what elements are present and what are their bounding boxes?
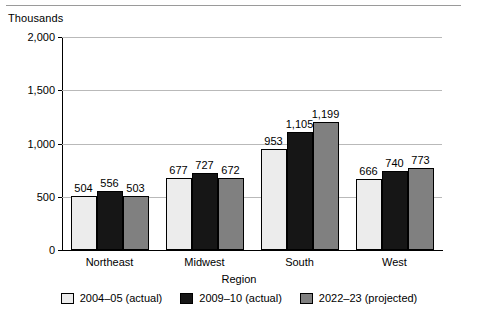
y-axis-tick-label: 500	[37, 191, 55, 203]
bar-group: 666740773	[356, 37, 434, 250]
bar-group: 504556503	[71, 37, 149, 250]
legend-swatch	[300, 293, 313, 304]
bar-value-label: 773	[411, 154, 429, 166]
bar[interactable]: 773	[408, 168, 434, 250]
bar[interactable]: 504	[71, 196, 97, 250]
bar[interactable]: 556	[97, 191, 123, 250]
bar-value-label: 1,105	[286, 118, 314, 130]
bar-chart: Thousands 05001,0001,5002,000 5045565036…	[0, 0, 478, 311]
y-axis-tick-label: 2,000	[27, 31, 55, 43]
x-axis-tick-label: West	[382, 256, 407, 268]
gridline	[62, 250, 442, 251]
bar-group: 677727672	[166, 37, 244, 250]
legend-item[interactable]: 2004–05 (actual)	[61, 292, 163, 304]
x-axis-tick-label: Northeast	[86, 256, 134, 268]
x-axis-tick-label: South	[285, 256, 314, 268]
bar[interactable]: 727	[192, 173, 218, 250]
bar[interactable]: 677	[166, 178, 192, 250]
y-axis-tick-label: 1,000	[27, 138, 55, 150]
legend-label: 2004–05 (actual)	[80, 292, 163, 304]
legend-label: 2022–23 (projected)	[319, 292, 417, 304]
y-axis-tick	[58, 37, 62, 38]
legend-label: 2009–10 (actual)	[199, 292, 282, 304]
bar[interactable]: 503	[123, 196, 149, 250]
bar-group: 9531,1051,199	[261, 37, 339, 250]
bar[interactable]: 666	[356, 179, 382, 250]
legend-swatch	[180, 293, 193, 304]
bar-value-label: 672	[221, 164, 239, 176]
bar-value-label: 953	[264, 135, 282, 147]
bar[interactable]: 1,105	[287, 132, 313, 250]
y-axis-tick	[58, 144, 62, 145]
bar[interactable]: 1,199	[313, 122, 339, 250]
bar-value-label: 666	[359, 165, 377, 177]
y-axis-tick-label: 1,500	[27, 84, 55, 96]
bar[interactable]: 672	[218, 178, 244, 250]
plot-area: 05001,0001,5002,000 50455650367772767295…	[62, 37, 442, 250]
bar-value-label: 727	[195, 159, 213, 171]
y-axis-tick-label: 0	[49, 244, 55, 256]
y-axis-units-label: Thousands	[8, 12, 63, 24]
y-axis-tick	[58, 250, 62, 251]
legend-swatch	[61, 293, 74, 304]
bar-value-label: 677	[169, 164, 187, 176]
top-divider	[6, 5, 461, 6]
bar-value-label: 740	[385, 157, 403, 169]
x-axis-tick-label: Midwest	[184, 256, 224, 268]
legend-item[interactable]: 2009–10 (actual)	[180, 292, 282, 304]
legend-item[interactable]: 2022–23 (projected)	[300, 292, 417, 304]
bar[interactable]: 953	[261, 149, 287, 250]
chart-legend: 2004–05 (actual)2009–10 (actual)2022–23 …	[0, 292, 478, 304]
y-axis-tick	[58, 197, 62, 198]
x-axis-title: Region	[0, 273, 478, 285]
y-axis-tick	[58, 90, 62, 91]
bar-value-label: 1,199	[312, 108, 340, 120]
bar-value-label: 504	[74, 182, 92, 194]
bar-value-label: 556	[100, 177, 118, 189]
bar[interactable]: 740	[382, 171, 408, 250]
bar-value-label: 503	[126, 182, 144, 194]
